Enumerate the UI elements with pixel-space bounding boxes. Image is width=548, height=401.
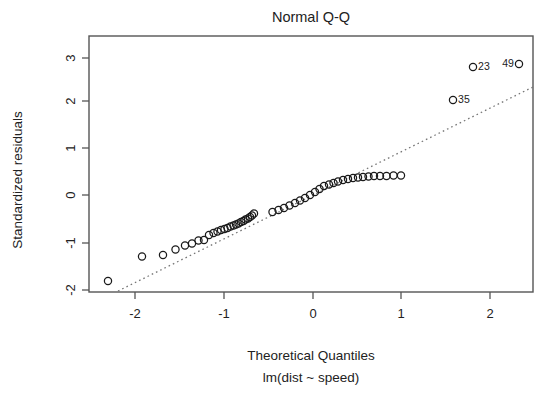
data-point <box>205 231 212 238</box>
chart-title: Normal Q-Q <box>272 9 350 25</box>
y-tick-label-1: 1 <box>63 144 78 151</box>
normal-qq-plot: 3 2 1 0 -1 -2 -2 -1 0 1 2 234935 <box>0 0 548 401</box>
y-axis-title: Standardized residuals <box>10 111 25 249</box>
plot-panel-box <box>89 36 533 292</box>
outlier-point-49 <box>515 60 522 67</box>
data-point <box>104 277 111 284</box>
y-axis-ticks <box>82 58 89 290</box>
outlier-point-23 <box>469 63 476 70</box>
data-point <box>159 251 166 258</box>
outlier-point-35 <box>449 96 456 103</box>
y-tick-label-0: 0 <box>63 191 78 198</box>
outlier-label-35: 35 <box>458 93 470 105</box>
x-axis-ticks <box>135 292 490 299</box>
plot-canvas: 3 2 1 0 -1 -2 -2 -1 0 1 2 234935 <box>0 0 548 401</box>
plot-subtitle: lm(dist ~ speed) <box>263 370 359 385</box>
data-point <box>344 175 351 182</box>
x-tick-label-neg1: -1 <box>218 306 230 321</box>
y-axis-tick-labels: 3 2 1 0 -1 -2 <box>63 54 78 295</box>
y-tick-label-2: 2 <box>63 97 78 104</box>
y-tick-label-neg1: -1 <box>63 237 78 249</box>
data-point <box>172 246 179 253</box>
data-point <box>181 242 188 249</box>
outlier-label-23: 23 <box>478 60 490 72</box>
data-point <box>397 172 404 179</box>
x-axis-title: Theoretical Quantiles <box>247 348 375 363</box>
data-point <box>339 176 346 183</box>
x-tick-label-0: 0 <box>309 306 316 321</box>
x-tick-label-1: 1 <box>397 306 404 321</box>
data-point <box>334 178 341 185</box>
x-tick-label-neg2: -2 <box>129 306 141 321</box>
data-point <box>390 172 397 179</box>
data-point <box>138 253 145 260</box>
data-points-layer <box>104 172 404 285</box>
y-tick-label-3: 3 <box>63 54 78 61</box>
x-tick-label-2: 2 <box>486 306 493 321</box>
outlier-label-49: 49 <box>502 57 514 69</box>
y-tick-label-neg2: -2 <box>63 284 78 296</box>
x-axis-tick-labels: -2 -1 0 1 2 <box>129 306 493 321</box>
